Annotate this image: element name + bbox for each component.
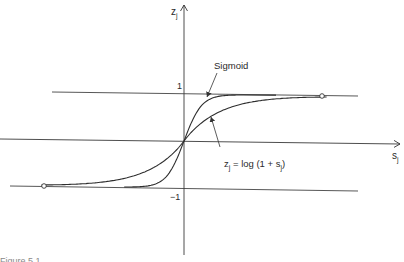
figure-caption: Figure 5.1	[0, 252, 120, 262]
sigmoid-label: Sigmoid	[214, 60, 248, 71]
log-function-label: zj = log (1 + sj)	[224, 158, 285, 172]
tick-label-minus-one: −1	[170, 192, 180, 202]
x-axis	[0, 139, 400, 144]
sigmoid-pointer	[207, 73, 217, 97]
x-axis-label: sj	[392, 150, 399, 164]
log-pointer	[211, 117, 220, 147]
activation-function-diagram: zj sj 1 −1 Sigmoid zj = log (1 + sj)	[0, 0, 404, 262]
lower-endpoint-marker	[42, 184, 47, 189]
upper-endpoint-marker	[320, 94, 325, 99]
upper-asymptote-line	[52, 92, 358, 96]
y-axis-label: zj	[171, 6, 178, 20]
tick-label-one: 1	[177, 81, 182, 91]
